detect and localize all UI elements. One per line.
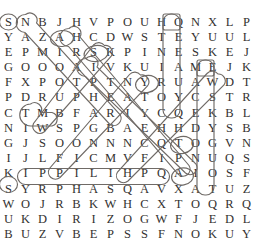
grid-cell[interactable]: D (221, 75, 238, 90)
grid-cell[interactable]: W (102, 197, 119, 212)
grid-cell[interactable]: O (187, 136, 204, 151)
grid-cell[interactable]: N (238, 136, 255, 151)
grid-cell[interactable]: B (102, 121, 119, 136)
grid-cell[interactable]: A (85, 106, 102, 121)
grid-cell[interactable]: H (68, 182, 85, 197)
grid-cell[interactable]: B (68, 227, 85, 241)
grid-cell[interactable]: F (68, 106, 85, 121)
grid-cell[interactable]: A (119, 121, 136, 136)
grid-cell[interactable]: N (85, 136, 102, 151)
grid-cell[interactable]: S (0, 15, 17, 30)
grid-cell[interactable]: V (102, 60, 119, 75)
grid-cell[interactable]: L (238, 212, 255, 227)
grid-cell[interactable]: J (17, 151, 34, 166)
grid-cell[interactable]: C (0, 106, 17, 121)
grid-cell[interactable]: J (238, 45, 255, 60)
grid-cell[interactable]: I (119, 106, 136, 121)
grid-cell[interactable]: A (170, 60, 187, 75)
grid-cell[interactable]: L (238, 30, 255, 45)
grid-cell[interactable]: I (153, 151, 170, 166)
grid-cell[interactable]: M (102, 151, 119, 166)
grid-cell[interactable]: M (187, 60, 204, 75)
grid-cell[interactable]: Q (170, 15, 187, 30)
grid-cell[interactable]: Q (221, 151, 238, 166)
grid-cell[interactable]: E (102, 90, 119, 105)
grid-cell[interactable]: N (153, 45, 170, 60)
grid-cell[interactable]: A (170, 166, 187, 181)
grid-cell[interactable]: I (187, 166, 204, 181)
grid-cell[interactable]: I (85, 212, 102, 227)
grid-cell[interactable]: Z (102, 212, 119, 227)
grid-cell[interactable]: W (0, 197, 17, 212)
grid-cell[interactable]: U (204, 151, 221, 166)
grid-cell[interactable]: K (204, 45, 221, 60)
grid-cell[interactable]: D (187, 121, 204, 136)
grid-cell[interactable]: E (0, 45, 17, 60)
grid-cell[interactable]: A (51, 30, 68, 45)
grid-cell[interactable]: S (204, 90, 221, 105)
grid-cell[interactable]: N (119, 75, 136, 90)
grid-cell[interactable]: X (17, 75, 34, 90)
grid-cell[interactable]: H (119, 166, 136, 181)
grid-cell[interactable]: H (153, 15, 170, 30)
grid-cell[interactable]: S (0, 182, 17, 197)
grid-cell[interactable]: I (51, 212, 68, 227)
grid-cell[interactable]: P (51, 182, 68, 197)
grid-cell[interactable]: O (17, 60, 34, 75)
grid-cell[interactable]: N (187, 151, 204, 166)
grid-cell[interactable]: I (68, 166, 85, 181)
grid-cell[interactable]: F (136, 151, 153, 166)
grid-cell[interactable]: K (204, 106, 221, 121)
grid-cell[interactable]: Z (238, 182, 255, 197)
grid-cell[interactable]: E (170, 30, 187, 45)
grid-cell[interactable]: O (204, 166, 221, 181)
grid-cell[interactable]: T (17, 106, 34, 121)
grid-cell[interactable]: I (17, 166, 34, 181)
grid-cell[interactable]: T (153, 30, 170, 45)
grid-cell[interactable]: O (34, 60, 51, 75)
grid-cell[interactable]: P (0, 90, 17, 105)
grid-cell[interactable]: Y (17, 182, 34, 197)
grid-cell[interactable]: P (102, 227, 119, 241)
grid-cell[interactable]: C (153, 106, 170, 121)
grid-cell[interactable]: K (238, 60, 255, 75)
grid-cell[interactable]: T (238, 75, 255, 90)
grid-cell[interactable]: J (17, 136, 34, 151)
grid-cell[interactable]: E (136, 121, 153, 136)
grid-cell[interactable]: V (221, 136, 238, 151)
grid-cell[interactable]: L (238, 106, 255, 121)
grid-cell[interactable]: L (221, 15, 238, 30)
grid-cell[interactable]: F (51, 151, 68, 166)
grid-cell[interactable]: B (68, 197, 85, 212)
grid-cell[interactable]: C (85, 30, 102, 45)
grid-cell[interactable]: N (102, 136, 119, 151)
grid-cell[interactable]: S (221, 121, 238, 136)
grid-cell[interactable]: I (102, 166, 119, 181)
grid-cell[interactable]: S (136, 227, 153, 241)
grid-cell[interactable]: P (68, 121, 85, 136)
grid-cell[interactable]: Q (153, 166, 170, 181)
grid-cell[interactable]: O (51, 60, 68, 75)
grid-cell[interactable]: A (68, 60, 85, 75)
grid-cell[interactable]: E (85, 227, 102, 241)
grid-cell[interactable]: U (0, 212, 17, 227)
grid-cell[interactable]: E (221, 45, 238, 60)
grid-cell[interactable]: I (85, 60, 102, 75)
grid-cell[interactable]: P (17, 45, 34, 60)
grid-cell[interactable]: D (102, 30, 119, 45)
grid-cell[interactable]: A (187, 75, 204, 90)
grid-cell[interactable]: H (68, 30, 85, 45)
grid-cell[interactable]: A (136, 182, 153, 197)
grid-cell[interactable]: Y (136, 106, 153, 121)
grid-cell[interactable]: V (85, 15, 102, 30)
grid-cell[interactable]: S (102, 182, 119, 197)
grid-cell[interactable]: K (204, 227, 221, 241)
grid-cell[interactable]: R (34, 90, 51, 105)
grid-cell[interactable]: X (170, 182, 187, 197)
grid-cell[interactable]: T (68, 75, 85, 90)
grid-cell[interactable]: T (170, 136, 187, 151)
grid-cell[interactable]: N (0, 121, 17, 136)
grid-cell[interactable]: B (238, 121, 255, 136)
grid-cell[interactable]: I (0, 151, 17, 166)
grid-cell[interactable]: I (68, 151, 85, 166)
